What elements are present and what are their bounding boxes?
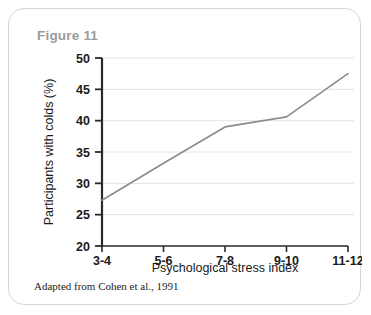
- y-tick-label: 20: [76, 240, 90, 254]
- chart-gridlines: [102, 58, 354, 215]
- y-tick-label: 45: [76, 83, 90, 97]
- x-axis-title: Psychological stress index: [152, 261, 299, 275]
- line-chart: 20253035404550 3-45-67-89-1011-12 Psycho…: [9, 9, 362, 306]
- x-tick-label: 11-12: [332, 254, 362, 268]
- y-tick-label: 40: [76, 114, 90, 128]
- y-axis-ticks: 20253035404550: [76, 52, 102, 254]
- x-tick-label: 3-4: [93, 254, 111, 268]
- data-series-line: [102, 74, 348, 201]
- y-tick-label: 50: [76, 52, 90, 66]
- y-tick-label: 30: [76, 177, 90, 191]
- figure-source-note: Adapted from Cohen et al., 1991: [34, 280, 179, 292]
- y-axis-title: Participants with colds (%): [42, 79, 56, 226]
- y-tick-label: 35: [76, 146, 90, 160]
- chart-plot-area: 20253035404550 3-45-67-89-1011-12 Psycho…: [9, 9, 362, 306]
- figure-card: Figure 11 20253035404550 3-45-67-89-1011…: [8, 8, 361, 305]
- y-tick-label: 25: [76, 208, 90, 222]
